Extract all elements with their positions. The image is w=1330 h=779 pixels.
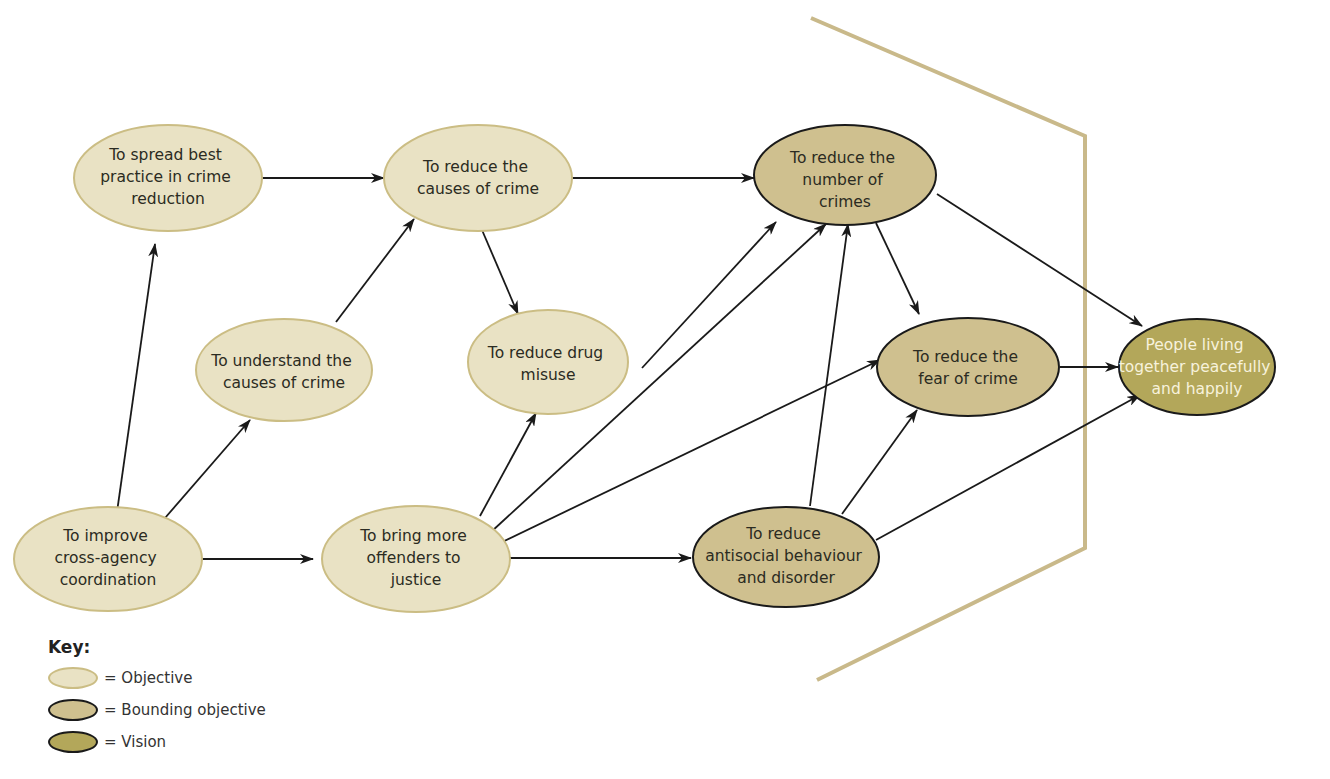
key-item-objective: = Objective bbox=[48, 667, 192, 689]
edge-understand-to-causes bbox=[336, 219, 414, 322]
vision-swatch-icon bbox=[48, 731, 98, 753]
edge-number-to-vision bbox=[937, 194, 1142, 326]
key-item-vision: = Vision bbox=[48, 731, 166, 753]
node-reduce-fear: To reduce the fear of crime bbox=[877, 318, 1059, 416]
edge-antisocial-to-vision bbox=[876, 395, 1140, 540]
node-vision: People living together peacefully and ha… bbox=[1119, 319, 1276, 415]
edge-causes-to-drug bbox=[482, 230, 518, 314]
objective-swatch-icon bbox=[48, 667, 98, 689]
edge-antisocial-to-number bbox=[810, 224, 848, 506]
node-reduce-drug-misuse: To reduce drug misuse bbox=[468, 310, 628, 414]
node-bring-offenders: To bring more offenders to justice bbox=[322, 506, 510, 612]
key-label: = Vision bbox=[104, 733, 166, 751]
edge-antisocial-to-fear bbox=[842, 410, 917, 514]
edge-number-to-fear bbox=[876, 223, 919, 314]
edge-improve-to-spread bbox=[117, 244, 155, 512]
key-label: = Bounding objective bbox=[104, 701, 266, 719]
objectives-diagram: To spread best practice in crime reducti… bbox=[0, 0, 1330, 779]
node-reduce-causes: To reduce the causes of crime bbox=[384, 125, 572, 231]
node-spread-best-practice: To spread best practice in crime reducti… bbox=[74, 125, 262, 231]
key-title: Key: bbox=[48, 637, 90, 657]
node-reduce-number-crimes: To reduce the number of crimes bbox=[754, 125, 936, 225]
node-label: To improve cross-agency coordination bbox=[54, 527, 161, 589]
node-reduce-antisocial: To reduce antisocial behaviour and disor… bbox=[693, 507, 879, 607]
node-improve-coordination: To improve cross-agency coordination bbox=[14, 507, 202, 611]
node-understand-causes: To understand the causes of crime bbox=[196, 319, 372, 421]
key-label: = Objective bbox=[104, 669, 192, 687]
edge-improve-to-understand bbox=[165, 420, 250, 518]
edge-offenders-to-drug bbox=[480, 413, 536, 516]
bounding-swatch-icon bbox=[48, 699, 98, 721]
edge-offenders-to-number-a bbox=[642, 222, 776, 368]
key-item-bounding: = Bounding objective bbox=[48, 699, 266, 721]
